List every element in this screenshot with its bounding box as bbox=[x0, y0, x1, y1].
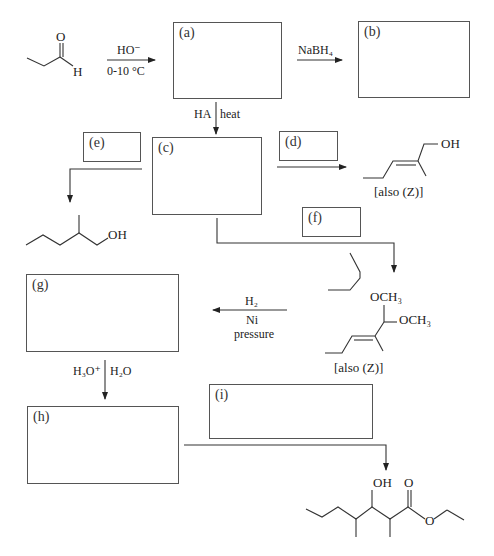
arrow-e bbox=[70, 169, 142, 202]
reagent-h3o: H₃O⁺ bbox=[73, 365, 101, 377]
acetal-structure bbox=[325, 322, 384, 353]
box-label-g: (g) bbox=[32, 277, 48, 293]
reagent-nabh4: NaBH₄ bbox=[298, 44, 333, 56]
answer-box-d[interactable]: (d) bbox=[279, 131, 338, 161]
saturated-oh-label: OH bbox=[108, 228, 127, 241]
reagent-pressure: pressure bbox=[234, 328, 274, 340]
reagent-h2o: H₂O bbox=[110, 365, 132, 377]
box-label-e: (e) bbox=[89, 135, 105, 151]
allylic-alcohol-structure bbox=[363, 144, 438, 178]
answer-box-h[interactable]: (h) bbox=[27, 406, 179, 484]
box-label-h: (h) bbox=[33, 409, 49, 425]
answer-box-i[interactable]: (i) bbox=[209, 384, 373, 439]
box-label-b: (b) bbox=[364, 24, 380, 40]
box-label-c: (c) bbox=[158, 140, 174, 156]
box-label-i: (i) bbox=[215, 387, 228, 403]
propanal-hydrogen: H bbox=[73, 65, 82, 78]
reagent-h2: H₂ bbox=[245, 295, 258, 307]
box-label-d: (d) bbox=[285, 134, 301, 150]
box-label-f: (f) bbox=[308, 210, 322, 226]
reagent-temperature: 0-10 °C bbox=[107, 65, 145, 77]
acetal-z-note: [also (Z)] bbox=[334, 361, 383, 374]
answer-box-e[interactable]: (e) bbox=[83, 132, 141, 162]
answer-box-f[interactable]: (f) bbox=[302, 207, 361, 237]
propanal-oxygen: O bbox=[56, 30, 65, 43]
acetal-och3-top: OCH₃ bbox=[370, 290, 402, 303]
final-ester-structure bbox=[306, 507, 425, 519]
arrow-i bbox=[184, 445, 386, 470]
allylic-oh-label: OH bbox=[441, 137, 460, 150]
ester-carbonyl-o: O bbox=[404, 476, 413, 489]
acetal-och3-right: OCH₃ bbox=[399, 313, 431, 326]
answer-box-a[interactable]: (a) bbox=[173, 22, 282, 99]
answer-box-b[interactable]: (b) bbox=[358, 21, 470, 98]
answer-box-c[interactable]: (c) bbox=[152, 137, 262, 215]
allylic-z-note: [also (Z)] bbox=[374, 185, 423, 198]
reagent-ni: Ni bbox=[246, 314, 258, 326]
reagent-heat: heat bbox=[220, 108, 240, 120]
ester-oxygen: O bbox=[425, 514, 434, 527]
saturated-alcohol-structure bbox=[26, 233, 108, 245]
propanal-structure bbox=[27, 57, 60, 66]
reagent-ha: HA bbox=[194, 108, 211, 120]
reagent-hydroxide: HO⁻ bbox=[117, 44, 141, 56]
box-label-a: (a) bbox=[179, 25, 195, 41]
answer-box-g[interactable]: (g) bbox=[26, 274, 179, 352]
ester-oh-label: OH bbox=[373, 476, 392, 489]
